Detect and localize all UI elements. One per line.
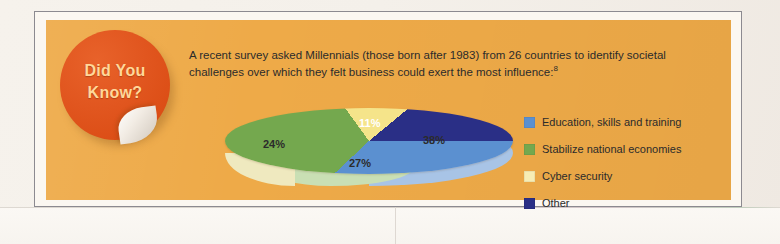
pie-chart: 38% 27% 24% 11% xyxy=(225,108,525,193)
content-frame: Did You Know? A recent survey asked Mill… xyxy=(34,11,742,207)
legend-swatch-education xyxy=(524,117,535,128)
legend-label-other: Other xyxy=(542,197,570,210)
legend-swatch-other xyxy=(524,198,535,209)
pie-label-cyber: 24% xyxy=(263,138,285,150)
badge-text: Did You Know? xyxy=(60,60,170,104)
legend-label-economies: Stabilize national economies xyxy=(542,143,681,156)
pie-label-other: 11% xyxy=(359,117,380,129)
legend-item-economies: Stabilize national economies xyxy=(524,143,739,170)
legend-label-education: Education, skills and training xyxy=(542,116,681,129)
legend-swatch-economies xyxy=(524,144,535,155)
pie-label-education: 38% xyxy=(423,134,445,146)
badge-line-1: Did You xyxy=(60,60,170,82)
did-you-know-badge: Did You Know? xyxy=(60,30,174,144)
legend-swatch-cyber xyxy=(524,171,535,182)
legend-item-cyber: Cyber security xyxy=(524,170,739,197)
body-copy: A recent survey asked Millennials (those… xyxy=(189,47,689,80)
pie-body: 38% 27% 24% 11% xyxy=(225,108,517,193)
infographic-page: Did You Know? A recent survey asked Mill… xyxy=(0,0,780,244)
chart-legend: Education, skills and training Stabilize… xyxy=(524,116,739,224)
pie-label-economies: 27% xyxy=(349,157,371,169)
legend-item-education: Education, skills and training xyxy=(524,116,739,143)
footnote-marker: 8 xyxy=(553,64,557,73)
body-copy-line-2: challenges over which they felt business… xyxy=(189,66,553,78)
legend-label-cyber: Cyber security xyxy=(542,170,612,183)
page-gutter-line xyxy=(395,206,396,244)
legend-item-other: Other xyxy=(524,197,739,224)
body-copy-line-1: A recent survey asked Millennials (those… xyxy=(189,49,666,61)
badge-line-2: Know? xyxy=(60,82,170,104)
orange-panel: Did You Know? A recent survey asked Mill… xyxy=(46,20,731,200)
